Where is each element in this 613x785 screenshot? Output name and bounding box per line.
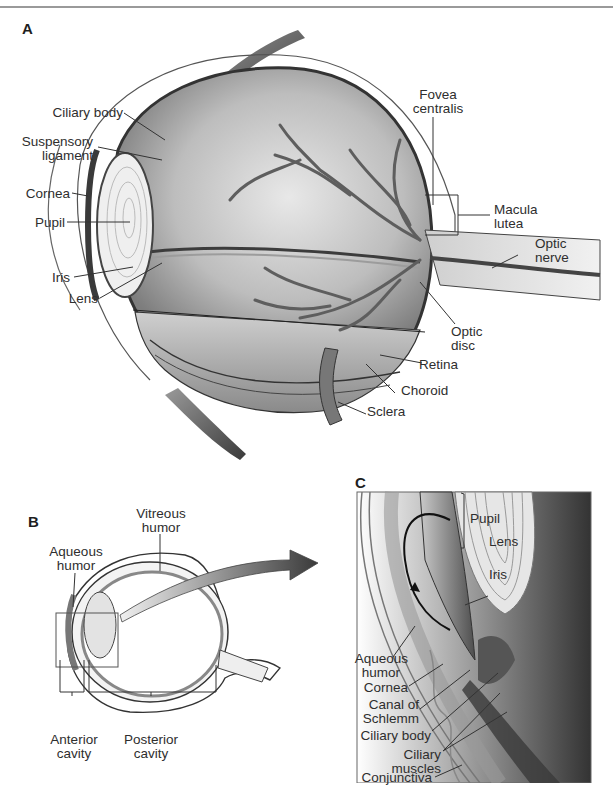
label-c-ciliary-muscles-line1: Ciliary [340, 747, 441, 762]
label-pupil: Pupil [10, 215, 65, 230]
label-vitreous-humor-line1: Vitreous [130, 506, 192, 521]
label-optic-nerve-line2: nerve [535, 250, 569, 265]
label-c-canal-of-schlemm-line2: Schlemm [340, 711, 419, 726]
label-c-ciliary-body: Ciliary body [340, 728, 431, 743]
label-c-canal-of-schlemm-line1: Canal of [340, 697, 419, 712]
label-ciliary-body: Ciliary body [28, 105, 123, 120]
label-macula-lutea-line2: lutea [494, 216, 523, 231]
label-c-pupil: Pupil [470, 511, 500, 526]
panel-b-letter: B [28, 513, 39, 530]
label-cornea: Cornea [10, 186, 70, 201]
label-c-cornea: Cornea [340, 680, 408, 695]
label-anterior-cavity-line2: cavity [44, 746, 104, 761]
label-c-iris: Iris [489, 567, 507, 582]
label-posterior-cavity-line2: cavity [120, 746, 182, 761]
label-c-conjunctiva: Conjunctiva [340, 770, 432, 785]
label-anterior-cavity-line1: Anterior [44, 732, 104, 747]
label-aqueous-humor-line1: Aqueous [46, 544, 106, 559]
label-lens: Lens [10, 291, 98, 306]
label-c-aqueous-humor-line1: Aqueous [340, 651, 408, 666]
label-optic-nerve-line1: Optic [535, 236, 567, 251]
label-c-lens: Lens [489, 534, 518, 549]
label-posterior-cavity-line1: Posterior [120, 732, 182, 747]
label-suspensory-ligament-line1: Suspensory [10, 134, 93, 149]
label-retina: Retina [419, 357, 458, 372]
label-iris: Iris [10, 270, 70, 285]
label-suspensory-ligament-line2: ligament [10, 148, 93, 163]
label-macula-lutea-line1: Macula [494, 202, 538, 217]
label-sclera: Sclera [367, 404, 405, 419]
label-vitreous-humor-line2: humor [130, 520, 192, 535]
label-optic-disc-line2: disc [451, 338, 475, 353]
label-fovea-centralis-line1: Fovea [408, 87, 468, 102]
label-aqueous-humor-line2: humor [46, 558, 106, 573]
label-optic-disc-line1: Optic [451, 324, 483, 339]
panel-c-letter: C [355, 474, 366, 491]
label-fovea-centralis-line2: centralis [408, 101, 468, 116]
label-choroid: Choroid [401, 383, 448, 398]
label-c-aqueous-humor-line2: humor [340, 665, 400, 680]
